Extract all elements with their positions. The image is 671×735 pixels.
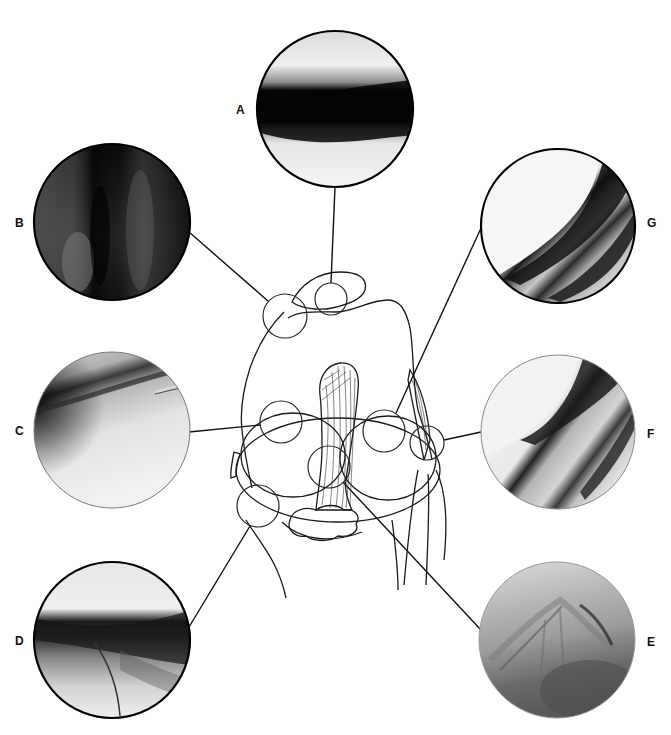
view-label-F: F: [647, 428, 654, 440]
leader-lines: [189, 187, 482, 630]
view-ring-A: [315, 283, 347, 315]
arthroscopic-view-E: [479, 562, 640, 720]
view-ring-E: [308, 446, 350, 488]
fibula-line: [436, 470, 446, 560]
arthroscopic-view-C: [34, 352, 190, 508]
arthroscopic-view-B: [34, 144, 190, 300]
view-label-E: E: [647, 636, 655, 648]
medial-structure: [231, 452, 240, 478]
leader-line-D: [189, 526, 250, 627]
femur-outline: [288, 300, 432, 460]
tibia-center-line: [392, 520, 398, 590]
femur-medial-outline: [241, 312, 284, 488]
medial-condyle: [241, 413, 345, 497]
arthroscopic-view-G: [481, 149, 636, 303]
fat-pad-base: [282, 522, 362, 539]
lateral-condyle: [340, 416, 436, 500]
view-ring-F: [410, 426, 444, 460]
leader-line-A: [331, 187, 335, 283]
view-label-C: C: [15, 425, 24, 437]
arthroscopic-view-D: [34, 562, 190, 718]
arthroscopic-view-A: [257, 31, 413, 187]
view-label-G: G: [647, 217, 656, 229]
view-label-A: A: [236, 104, 245, 116]
leader-line-B: [189, 232, 268, 301]
leader-line-C: [189, 425, 260, 432]
leader-line-F: [444, 432, 481, 440]
knee-arthroscopy-figure: [0, 0, 671, 735]
view-label-B: B: [15, 217, 24, 229]
infrapatellar-fat-pad: [289, 506, 358, 541]
view-ring-D: [237, 485, 279, 527]
view-label-D: D: [15, 635, 24, 647]
tibia-lateral-line-1: [404, 470, 418, 585]
tibia-medial-line: [246, 520, 286, 598]
tibia-lateral-line-2: [426, 474, 429, 585]
cruciate-ligament: [316, 363, 358, 510]
view-ring-B: [263, 294, 307, 338]
arthroscopic-view-F: [481, 355, 635, 509]
